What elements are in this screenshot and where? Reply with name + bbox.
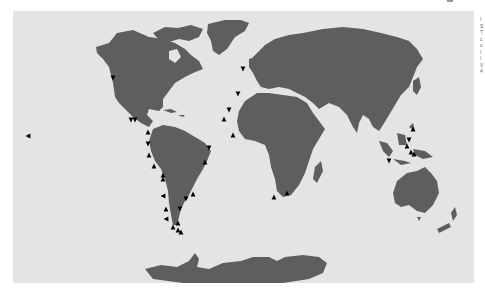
triangle-marker-icon[interactable] bbox=[191, 192, 196, 197]
triangle-marker-icon[interactable] bbox=[171, 225, 176, 230]
japan bbox=[413, 77, 421, 95]
triangle-marker-icon[interactable] bbox=[272, 195, 277, 200]
triangle-marker-icon[interactable] bbox=[164, 217, 169, 222]
top-edge-mark bbox=[447, 0, 453, 2]
triangle-marker-icon[interactable] bbox=[236, 92, 241, 97]
land-layer bbox=[96, 20, 457, 283]
caribbean bbox=[163, 109, 185, 117]
africa bbox=[237, 93, 325, 197]
antarctica bbox=[145, 253, 327, 283]
new-zealand bbox=[437, 207, 457, 233]
australia bbox=[393, 167, 439, 213]
side-caption-clipped: I S T c c I I V 4 bbox=[480, 16, 485, 75]
triangle-marker-icon[interactable] bbox=[387, 159, 392, 164]
map-canvas bbox=[13, 11, 474, 283]
side-text-line: 4 bbox=[480, 68, 485, 75]
triangle-marker-icon[interactable] bbox=[222, 117, 227, 122]
tasmania bbox=[417, 217, 421, 221]
world-map[interactable] bbox=[13, 11, 474, 283]
greenland bbox=[207, 20, 249, 55]
triangle-marker-icon[interactable] bbox=[227, 108, 232, 113]
triangle-marker-icon[interactable] bbox=[133, 118, 138, 123]
madagascar bbox=[313, 161, 323, 183]
triangle-marker-icon[interactable] bbox=[26, 134, 31, 139]
triangle-marker-icon[interactable] bbox=[407, 138, 412, 143]
triangle-marker-icon[interactable] bbox=[231, 133, 236, 138]
triangle-marker-icon[interactable] bbox=[147, 153, 152, 158]
triangle-marker-icon[interactable] bbox=[146, 130, 151, 135]
triangle-marker-icon[interactable] bbox=[164, 207, 169, 212]
triangle-marker-icon[interactable] bbox=[161, 194, 166, 199]
triangle-marker-icon[interactable] bbox=[409, 150, 414, 155]
triangle-marker-icon[interactable] bbox=[129, 118, 134, 123]
triangle-marker-icon[interactable] bbox=[241, 67, 246, 72]
triangle-marker-icon[interactable] bbox=[176, 228, 181, 233]
triangle-marker-icon[interactable] bbox=[152, 164, 157, 169]
